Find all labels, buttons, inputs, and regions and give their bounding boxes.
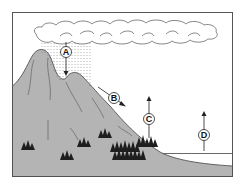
water-cycle-diagram: A B C D [0, 0, 247, 185]
label-c: C [146, 114, 153, 124]
cloud [34, 20, 217, 44]
label-a: A [63, 47, 70, 57]
clouds [34, 20, 217, 44]
label-d: D [201, 130, 208, 140]
label-b: B [111, 93, 118, 103]
